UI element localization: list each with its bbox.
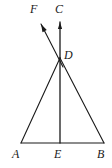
arrowhead-f-icon	[41, 24, 47, 32]
geometry-figure: F C D A E B	[0, 0, 112, 168]
vertex-label-a: A	[12, 148, 19, 160]
rays-group	[41, 22, 63, 67]
arrowhead-c-icon	[58, 22, 62, 29]
triangle-outline	[21, 58, 104, 143]
vertex-label-f: F	[30, 3, 37, 15]
segment-DB	[60, 58, 104, 143]
figure-canvas	[0, 0, 112, 168]
vertex-label-e: E	[54, 148, 61, 160]
segment-AD	[21, 58, 60, 143]
vertex-label-c: C	[55, 3, 63, 15]
vertex-label-b: B	[97, 148, 104, 160]
vertex-label-d: D	[64, 49, 73, 61]
